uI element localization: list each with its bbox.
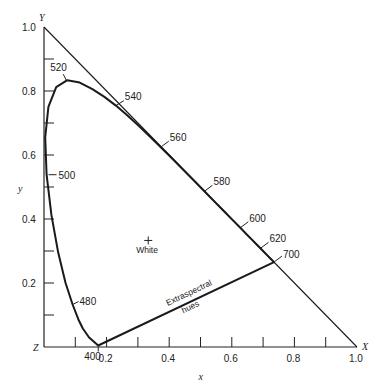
chromaticity-chart: Chromaticity diagram (cropped) ZXYxy 0.2… [0, 0, 383, 384]
y-tick-label: 0.4 [22, 214, 36, 225]
wavelength-tick [240, 222, 248, 228]
y-tick-label: 1.0 [22, 22, 36, 33]
wavelength-tick [204, 185, 212, 191]
y-axis-title: y [17, 183, 23, 194]
white-point-label: White [136, 245, 158, 255]
y-tick-label: 0.8 [22, 86, 36, 97]
y-tick-label: 0.2 [22, 278, 36, 289]
wavelength-tick [260, 242, 268, 248]
x-end-label: X [361, 341, 369, 352]
wavelength-label: 580 [213, 176, 230, 187]
x-tick-label: 0.4 [161, 353, 175, 364]
wavelength-label: 700 [283, 249, 300, 260]
wavelength-label: 400 [84, 351, 101, 362]
ticks: 0.20.40.60.81.00.20.40.60.81.0 [22, 22, 363, 364]
wavelength-label: 500 [59, 170, 76, 181]
wavelength-tick [161, 141, 169, 147]
annotations: WhiteExtraspectralhues [136, 236, 213, 315]
x-tick-label: 1.0 [349, 353, 363, 364]
wavelength-label: 600 [249, 213, 266, 224]
y-end-label: Y [39, 12, 46, 23]
wavelength-label: 620 [269, 233, 286, 244]
origin-label-z: Z [33, 342, 39, 353]
wavelength-label: 520 [50, 62, 67, 73]
x-tick-label: 0.8 [286, 353, 300, 364]
wavelength-tick [274, 256, 282, 262]
wavelength-labels: 400480500520540560580600620700 [49, 62, 301, 362]
chart-canvas: Chromaticity diagram (cropped) ZXYxy 0.2… [0, 0, 383, 384]
x-axis-title: x [198, 371, 204, 382]
x-tick-label: 0.6 [224, 353, 238, 364]
wavelength-label: 560 [170, 132, 187, 143]
wavelength-label: 540 [125, 91, 142, 102]
wavelength-tick [63, 74, 66, 80]
axes: ZXYxy [17, 12, 369, 382]
wavelength-label: 480 [80, 296, 97, 307]
y-tick-label: 0.6 [22, 150, 36, 161]
wavelength-tick [73, 302, 79, 305]
